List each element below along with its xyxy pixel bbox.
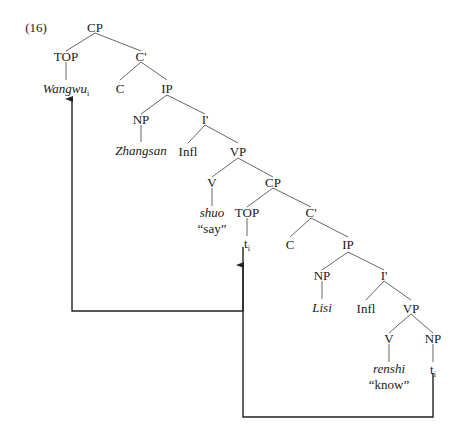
terminal-wangwu-index: i xyxy=(87,89,89,98)
node-ibar-embedded: I' xyxy=(381,269,388,282)
node-np-matrix: NP xyxy=(133,113,150,126)
node-v-embedded: V xyxy=(384,332,393,345)
gloss-renshi: “know” xyxy=(369,378,409,391)
node-c-matrix: C xyxy=(116,82,125,95)
terminal-renshi: renshi xyxy=(369,362,409,375)
terminal-lisi: Lisi xyxy=(312,301,332,314)
node-ibar-matrix: I' xyxy=(202,113,209,126)
node-vp-matrix: VP xyxy=(230,145,247,158)
node-np-object: NP xyxy=(425,332,442,345)
terminal-wangwu-text: Wangwu xyxy=(43,81,87,96)
syntax-tree-figure: (16) CP TOP C' Wangwui C IP NP I' Zhangs… xyxy=(0,0,460,443)
node-np-embedded: NP xyxy=(314,269,331,282)
trace-object: ti xyxy=(430,363,436,376)
node-infl-embedded: Infl xyxy=(357,302,376,315)
node-c-embedded: C xyxy=(286,238,295,251)
terminal-zhangsan: Zhangsan xyxy=(115,144,166,157)
node-cbar-embedded: C' xyxy=(305,206,316,219)
terminal-shuo: shuo xyxy=(198,206,227,219)
movement-arrow-object-to-embedded-top xyxy=(243,265,433,417)
node-top-matrix: TOP xyxy=(54,50,78,63)
node-v-matrix: V xyxy=(207,176,216,189)
node-infl-matrix: Infl xyxy=(179,145,198,158)
node-top-embedded: TOP xyxy=(235,206,259,219)
node-cp-matrix: CP xyxy=(87,21,103,34)
terminal-shuo-with-gloss: shuo “say” xyxy=(198,206,227,235)
terminal-wangwu: Wangwui xyxy=(43,82,90,95)
node-cbar-matrix: C' xyxy=(135,50,146,63)
node-ip-matrix: IP xyxy=(161,82,173,95)
gloss-shuo: “say” xyxy=(198,222,227,235)
node-cp-embedded: CP xyxy=(265,176,281,189)
trace-object-index: i xyxy=(434,370,436,379)
trace-embedded-top-index: i xyxy=(248,244,250,253)
example-number: (16) xyxy=(25,20,47,36)
node-vp-embedded: VP xyxy=(403,302,420,315)
node-ip-embedded: IP xyxy=(342,238,354,251)
trace-embedded-top: ti xyxy=(244,237,250,250)
terminal-renshi-with-gloss: renshi “know” xyxy=(369,362,409,391)
